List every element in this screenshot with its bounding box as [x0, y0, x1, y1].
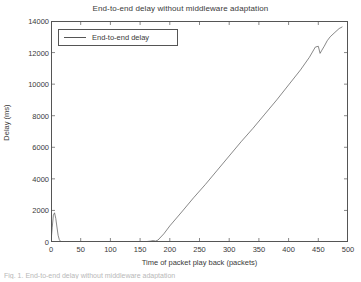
x-tick-label: 100	[104, 245, 117, 254]
y-tick-label: 14000	[1, 17, 49, 26]
y-axis-label: Delay (ms)	[2, 93, 11, 153]
figure-caption: Fig. 1. End-to-end delay without middlew…	[4, 272, 357, 279]
axis-tick-marks	[51, 21, 348, 242]
x-tick-label: 250	[193, 245, 206, 254]
legend-entry-label: End-to-end delay	[92, 33, 149, 42]
x-axis-label: Time of packet play back (packets)	[51, 258, 348, 267]
plot-svg	[51, 21, 348, 242]
x-tick-label: 400	[282, 245, 295, 254]
chart-title: End-to-end delay without middleware adap…	[0, 4, 361, 13]
y-tick-label: 10000	[1, 80, 49, 89]
x-tick-label: 500	[342, 245, 355, 254]
x-tick-label: 50	[77, 245, 85, 254]
x-tick-label: 350	[253, 245, 266, 254]
chart-container: End-to-end delay without middleware adap…	[0, 0, 361, 282]
y-tick-label: 2000	[1, 206, 49, 215]
chart-legend: End-to-end delay	[58, 29, 178, 46]
x-tick-label: 200	[164, 245, 177, 254]
x-tick-label: 300	[223, 245, 236, 254]
data-series-line	[51, 27, 342, 242]
x-tick-label: 450	[312, 245, 325, 254]
y-tick-label: 4000	[1, 174, 49, 183]
x-tick-label: 0	[49, 245, 53, 254]
legend-line-swatch	[64, 37, 86, 38]
y-tick-label: 0	[1, 238, 49, 247]
x-tick-label: 150	[134, 245, 147, 254]
y-tick-label: 12000	[1, 48, 49, 57]
